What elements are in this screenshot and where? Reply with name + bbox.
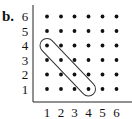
grid-point xyxy=(73,15,77,19)
grid-point xyxy=(115,58,119,62)
grid-point xyxy=(87,58,91,62)
grid-point xyxy=(73,44,77,48)
x-tick-label: 2 xyxy=(58,105,65,119)
grid-point xyxy=(73,73,77,77)
grid-point xyxy=(87,29,91,33)
grid-point xyxy=(45,29,49,33)
grid-point xyxy=(101,87,105,91)
grid-point xyxy=(59,15,63,19)
grid-point xyxy=(101,73,105,77)
points xyxy=(45,15,118,91)
grid-point xyxy=(59,87,63,91)
y-tick-label: 2 xyxy=(22,67,29,82)
grid-point xyxy=(45,15,49,19)
y-tick-label: 5 xyxy=(22,24,29,39)
y-tick-label: 4 xyxy=(22,38,29,53)
grid-point xyxy=(115,44,119,48)
x-tick-labels: 123456 xyxy=(44,105,121,119)
grid-point xyxy=(45,73,49,77)
y-tick-label: 3 xyxy=(22,53,29,68)
grid-point xyxy=(115,87,119,91)
grid-point xyxy=(73,29,77,33)
y-tick-labels: 123456 xyxy=(22,9,29,97)
x-tick-label: 5 xyxy=(99,105,106,119)
x-tick-label: 4 xyxy=(85,105,92,119)
grid-point xyxy=(45,44,49,48)
grid-point xyxy=(45,87,49,91)
grid-point xyxy=(59,58,63,62)
grid-point xyxy=(115,73,119,77)
y-tick-label: 1 xyxy=(22,82,29,97)
grid-point xyxy=(101,15,105,19)
grid-point xyxy=(87,44,91,48)
grid-point xyxy=(87,87,91,91)
grid-point xyxy=(115,29,119,33)
grid-point xyxy=(59,73,63,77)
dot-grid-figure: 123456 123456 xyxy=(0,0,132,119)
grid-point xyxy=(101,58,105,62)
grid-point xyxy=(101,44,105,48)
grid-point xyxy=(73,58,77,62)
grid-point xyxy=(115,15,119,19)
x-tick-label: 3 xyxy=(71,105,78,119)
x-tick-label: 1 xyxy=(44,105,51,119)
grid-point xyxy=(73,87,77,91)
grid-point xyxy=(59,29,63,33)
grid-point xyxy=(87,73,91,77)
grid-point xyxy=(59,44,63,48)
grid-point xyxy=(45,58,49,62)
grid-point xyxy=(87,15,91,19)
y-tick-label: 6 xyxy=(22,9,29,24)
x-tick-label: 6 xyxy=(113,105,120,119)
grid-point xyxy=(101,29,105,33)
